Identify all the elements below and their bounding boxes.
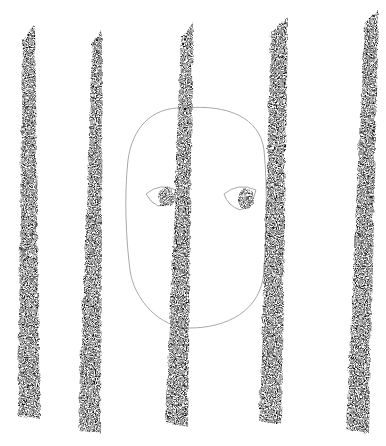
- pupil: [237, 188, 253, 208]
- bar-4: [258, 16, 286, 423]
- right-eye: [224, 187, 256, 210]
- face-outline: [126, 107, 266, 328]
- prison-bars: [17, 8, 377, 433]
- drawing-canvas: [0, 0, 386, 446]
- left-eye: [146, 186, 176, 206]
- bar-1: [17, 24, 39, 418]
- face: [126, 107, 266, 328]
- bar-3: [164, 22, 192, 425]
- bar-2: [77, 28, 101, 433]
- prison-bars-illustration: [0, 0, 386, 446]
- bar-5: [345, 8, 377, 432]
- pupil: [157, 186, 173, 206]
